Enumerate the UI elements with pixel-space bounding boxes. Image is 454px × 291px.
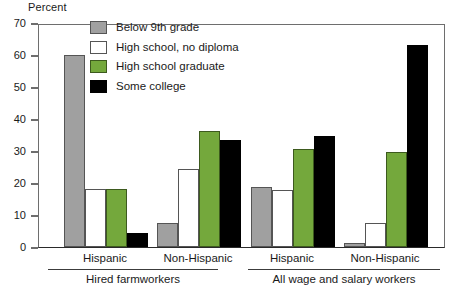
bar <box>407 45 428 247</box>
y-axis-tick-label: 40 <box>14 113 26 125</box>
bar <box>314 136 335 247</box>
x-axis-group-rule <box>48 269 218 270</box>
y-axis-tick-label: 30 <box>14 145 26 157</box>
legend-item-label: Some college <box>116 80 186 93</box>
x-axis-group-rule <box>248 269 440 270</box>
y-axis-tick-mark <box>31 183 38 184</box>
bar <box>85 189 106 247</box>
y-axis-tick-label: 10 <box>14 209 26 221</box>
x-axis-category-label: Hispanic <box>60 252 150 265</box>
legend-swatch-icon <box>90 21 107 34</box>
bar <box>64 55 85 247</box>
x-axis-group-label: All wage and salary workers <box>228 273 454 286</box>
legend-swatch-icon <box>90 60 107 73</box>
legend-swatch-icon <box>90 41 107 54</box>
y-axis-tick-label: 0 <box>20 241 26 253</box>
legend-item: Below 9th grade <box>90 18 239 38</box>
bar <box>220 140 241 247</box>
x-axis-category-label: Non-Hispanic <box>153 252 243 265</box>
y-axis-tick-label: 60 <box>14 49 26 61</box>
y-axis-tick-mark <box>31 87 38 88</box>
bar <box>199 131 220 247</box>
y-axis-tick-mark <box>31 247 38 248</box>
bar <box>127 233 148 247</box>
y-axis-tick-label: 70 <box>14 17 26 29</box>
x-axis-category-label: Non-Hispanic <box>340 252 430 265</box>
x-axis-category-label: Hispanic <box>247 252 337 265</box>
legend-item-label: High school, no diploma <box>116 41 239 54</box>
legend-item-label: High school graduate <box>116 60 225 73</box>
bar <box>272 190 293 247</box>
bar <box>293 149 314 247</box>
y-axis-tick-mark <box>31 55 38 56</box>
legend-item: High school graduate <box>90 57 239 77</box>
y-axis-tick-mark <box>31 151 38 152</box>
bar <box>386 152 407 247</box>
legend-item: High school, no diploma <box>90 38 239 58</box>
bar <box>178 169 199 247</box>
chart-legend: Below 9th gradeHigh school, no diplomaHi… <box>90 18 239 96</box>
legend-item: Some college <box>90 77 239 97</box>
legend-swatch-icon <box>90 80 107 93</box>
bar-chart: Percent 706050403020100 Below 9th gradeH… <box>0 0 454 291</box>
bar <box>106 189 127 247</box>
bar <box>344 243 365 247</box>
y-axis-tick-label: 50 <box>14 81 26 93</box>
y-axis-tick-mark <box>31 23 38 24</box>
legend-item-label: Below 9th grade <box>116 21 199 34</box>
y-axis-tick-mark <box>31 119 38 120</box>
y-axis-title: Percent <box>28 1 67 13</box>
bar <box>251 187 272 247</box>
y-axis-tick-label: 20 <box>14 177 26 189</box>
bar <box>157 223 178 247</box>
y-axis-tick-mark <box>31 215 38 216</box>
x-axis-group-label: Hired farmworkers <box>28 273 238 286</box>
bar <box>365 223 386 247</box>
